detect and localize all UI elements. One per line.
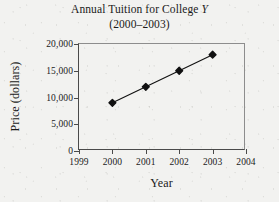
x-tick-label-2004: 2004 — [236, 157, 255, 167]
data-line — [112, 55, 212, 103]
y-tick-20000 — [74, 44, 79, 45]
x-tick-2002 — [179, 149, 180, 154]
chart-title: Annual Tuition for College Y — [0, 3, 279, 15]
data-point-2002 — [176, 67, 183, 74]
chart-subtitle: (2000–2003) — [0, 18, 279, 30]
x-axis-title: Year — [78, 176, 245, 191]
x-tick-label-2002: 2002 — [169, 157, 188, 167]
x-tick-1999 — [79, 149, 80, 154]
y-tick-label-10000: 10,000 — [46, 93, 73, 103]
chart-figure: Annual Tuition for College Y (2000–2003)… — [0, 0, 279, 202]
x-tick-2004 — [246, 149, 247, 154]
y-tick-10000 — [74, 98, 79, 99]
data-point-2003 — [209, 51, 216, 58]
x-tick-label-2003: 2003 — [203, 157, 222, 167]
y-tick-label-20000: 20,000 — [46, 39, 73, 49]
plot-area: 05,00010,00015,00020,000 199920002001200… — [78, 43, 245, 150]
y-tick-5000 — [74, 124, 79, 125]
y-tick-label-15000: 15,000 — [46, 66, 73, 76]
data-point-2001 — [142, 83, 149, 90]
x-tick-2001 — [146, 149, 147, 154]
chart-title-text: Annual Tuition for College — [71, 3, 201, 15]
plot-svg — [79, 44, 246, 151]
y-tick-label-0: 0 — [68, 146, 73, 156]
x-tick-label-2001: 2001 — [136, 157, 155, 167]
chart-title-italic-y: Y — [201, 3, 208, 15]
data-point-2000 — [109, 99, 116, 106]
x-tick-2003 — [213, 149, 214, 154]
x-tick-label-1999: 1999 — [69, 157, 88, 167]
y-tick-15000 — [74, 71, 79, 72]
y-tick-label-5000: 5,000 — [51, 119, 73, 129]
x-tick-2000 — [112, 149, 113, 154]
y-axis-title: Price (dollars) — [8, 43, 24, 150]
x-tick-label-2000: 2000 — [103, 157, 122, 167]
